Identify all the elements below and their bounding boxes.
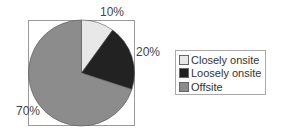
legend: Closely onsite Loosely onsite Offsite	[175, 50, 266, 95]
legend-item-offsite: Offsite	[179, 80, 262, 94]
legend-item-closely-onsite: Closely onsite	[179, 53, 262, 67]
data-label-closely-onsite: 10%	[100, 5, 124, 19]
legend-swatch-offsite	[179, 82, 189, 92]
data-label-loosely-onsite: 20%	[136, 45, 160, 59]
legend-label: Loosely onsite	[191, 67, 261, 79]
legend-label: Offsite	[191, 81, 223, 93]
data-label-offsite: 70%	[16, 104, 40, 118]
legend-item-loosely-onsite: Loosely onsite	[179, 67, 262, 81]
legend-label: Closely onsite	[191, 54, 259, 66]
legend-swatch-closely-onsite	[179, 55, 189, 65]
legend-swatch-loosely-onsite	[179, 68, 189, 78]
